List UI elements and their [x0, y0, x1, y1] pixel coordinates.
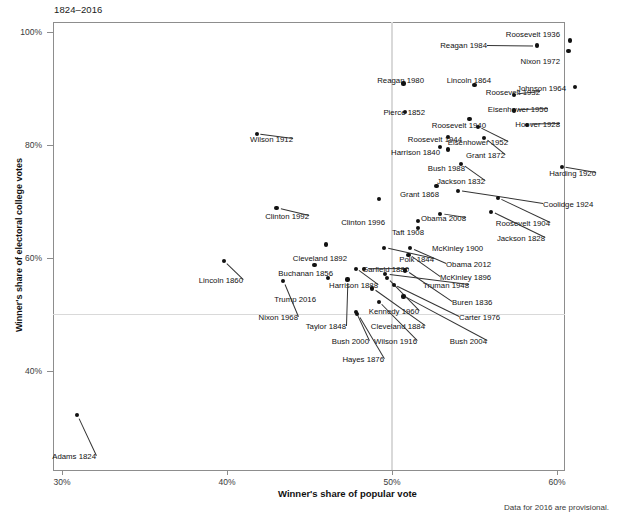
data-point	[274, 206, 278, 210]
data-point-label: Trump 2016	[274, 295, 316, 304]
data-point-label: Buren 1836	[452, 298, 492, 307]
data-point-label: Carter 1976	[459, 313, 500, 322]
chart-subtitle: 1824–2016	[54, 4, 102, 15]
data-point-label: McKinley 1900	[432, 244, 483, 253]
x-tick-50	[392, 470, 393, 475]
x-tick-label-50: 50%	[372, 477, 412, 487]
data-point	[312, 263, 316, 267]
label-leader-line	[346, 283, 348, 326]
data-point	[281, 279, 285, 283]
data-point	[535, 43, 539, 47]
data-point-label: Eisenhower 1952	[448, 138, 508, 147]
data-point	[370, 286, 374, 290]
data-point	[476, 125, 480, 129]
data-point	[326, 276, 330, 280]
data-point-label: Cleveland 1884	[371, 322, 425, 331]
data-point	[401, 294, 405, 298]
data-point-label: Adams 1824	[52, 452, 96, 461]
plot-area: Roosevelt 1936Reagan 1984Nixon 1972Johns…	[53, 22, 565, 470]
data-point-label: Jackson 1828	[497, 234, 545, 243]
label-leader-line	[487, 45, 533, 47]
data-point	[377, 197, 381, 201]
x-axis-title: Winner's share of popular vote	[278, 488, 417, 499]
x-tick-60	[557, 470, 558, 475]
data-point	[573, 85, 577, 89]
x-tick-label-30: 30%	[42, 477, 82, 487]
data-point-label: Reagan 1984	[440, 41, 487, 50]
x-tick-40	[227, 470, 228, 475]
data-point-label: Nixon 1968	[259, 313, 298, 322]
data-point-label: Bush 2000	[332, 337, 369, 346]
data-point	[382, 246, 386, 250]
data-point	[222, 259, 226, 263]
data-point-label: Buchanan 1856	[278, 269, 333, 278]
y-tick-100	[47, 32, 53, 33]
y-tick-40	[47, 371, 53, 372]
chart-figure: 1824–2016 Roosevelt 1936Reagan 1984Nixon…	[0, 0, 617, 524]
y-axis-title: Winner's share of electoral college vote…	[14, 125, 24, 365]
chart-footnote: Data for 2016 are provisional.	[504, 503, 609, 512]
data-point-label: Jackson 1832	[437, 177, 485, 186]
data-point-label: Reagan 1980	[377, 76, 424, 85]
data-point	[354, 267, 358, 271]
data-point	[377, 300, 381, 304]
label-leader-line	[79, 418, 97, 456]
data-point-label: Harrison 1840	[391, 148, 440, 157]
data-point-label: Nixon 1972	[521, 57, 560, 66]
data-point-label: Lincoln 1860	[199, 276, 243, 285]
reference-line-vertical-50	[391, 22, 393, 470]
data-point	[406, 253, 410, 257]
data-point	[75, 413, 79, 417]
data-point-label: Obama 2012	[446, 260, 491, 269]
data-point-label: Cleveland 1892	[293, 254, 347, 263]
data-point	[355, 312, 359, 316]
label-leader-line	[462, 190, 543, 204]
data-point	[324, 242, 328, 246]
data-point	[385, 276, 389, 280]
data-point	[403, 268, 407, 272]
y-tick-80	[47, 145, 53, 146]
data-point-label: Taylor 1848	[306, 322, 346, 331]
data-point-label: Hayes 1876	[342, 355, 384, 364]
data-point-label: Clinton 1996	[341, 218, 385, 227]
x-tick-30	[62, 470, 63, 475]
data-point	[416, 219, 420, 223]
data-point-label: Pierce 1852	[383, 108, 425, 117]
data-point	[392, 283, 396, 287]
y-tick-60	[47, 258, 53, 259]
x-tick-label-40: 40%	[207, 477, 247, 487]
data-point	[446, 147, 450, 151]
data-point	[456, 189, 460, 193]
data-point	[345, 277, 349, 281]
y-tick-label-40: 40%	[2, 366, 42, 376]
plot-frame-top	[53, 22, 565, 23]
data-point	[496, 196, 500, 200]
x-tick-label-60: 60%	[537, 477, 577, 487]
data-point-label: Roosevelt 1936	[506, 30, 560, 39]
data-point-label: Coolidge 1924	[543, 200, 593, 209]
data-point	[489, 210, 493, 214]
data-point-label: Wilson 1916	[374, 337, 417, 346]
data-point-label: Lincoln 1864	[447, 76, 491, 85]
data-point	[408, 246, 412, 250]
data-point-label: Grant 1872	[466, 151, 505, 160]
data-point	[568, 38, 572, 42]
y-tick-label-100: 100%	[2, 27, 42, 37]
data-point-label: Grant 1868	[400, 190, 439, 199]
data-point	[566, 49, 570, 53]
data-point	[434, 184, 438, 188]
x-axis-line	[53, 470, 565, 471]
data-point-label: Hoover 1928	[515, 120, 560, 129]
